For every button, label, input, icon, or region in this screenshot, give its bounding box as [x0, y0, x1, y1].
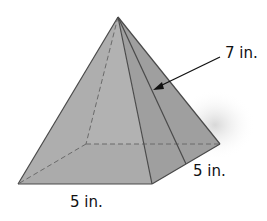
base-side-right-label: 5 in.	[193, 164, 226, 179]
pyramid-diagram: 7 in. 5 in. 5 in.	[0, 0, 267, 221]
pyramid-figure	[0, 0, 267, 221]
slant-height-label: 7 in.	[225, 46, 258, 61]
base-side-front-label: 5 in.	[70, 195, 103, 210]
